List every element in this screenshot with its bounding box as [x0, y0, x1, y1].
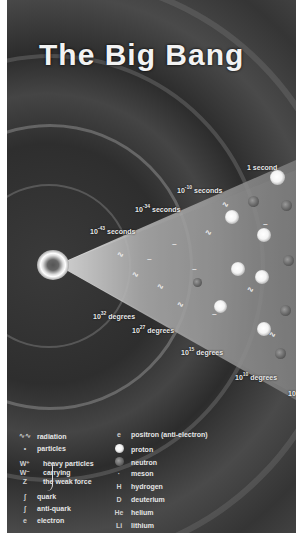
temp-label-1e27: 1027 degrees [132, 324, 174, 334]
big-bang-illustration: The Big Bang 1 second 10-10 seconds 10-3… [7, 0, 296, 533]
legend-item-electron: e electron [17, 517, 64, 524]
legend-item-positron: e positron (anti-electron) [111, 431, 208, 438]
temp-label-cut: 10 [288, 390, 296, 397]
temp-label-1e15: 1015 degrees [181, 346, 223, 356]
legend-item-neutron: neutron [111, 457, 157, 467]
legend-item-deuterium: D deuterium [111, 496, 165, 503]
proton-particle [214, 300, 227, 313]
meson-icon: · [111, 470, 127, 477]
proton-particle [270, 170, 285, 185]
quark-icon: ʃ [17, 493, 33, 500]
legend-item-helium: He helium [111, 509, 154, 516]
proton-icon [111, 444, 127, 454]
helium-icon: He [111, 509, 127, 516]
legend-item-weak-force: W⁺W⁻Z heavy particles carrying the weak … [17, 459, 94, 486]
radiation-icon: ∿ [117, 250, 124, 259]
weak-force-brace [47, 461, 53, 491]
legend-item-hydrogen: H hydrogen [111, 483, 163, 490]
radiation-icon: ∿ [157, 282, 164, 291]
neutron-particle [275, 348, 286, 359]
radiation-icon: ~ [172, 240, 177, 249]
deuterium-icon: D [111, 496, 127, 503]
lithium-icon: Li [111, 522, 127, 529]
neutron-icon [111, 457, 127, 467]
proton-particle [255, 270, 269, 284]
radiation-icon: ∿∿ [17, 432, 33, 440]
radiation-icon: ∿ [132, 270, 139, 279]
origin-flash [37, 250, 69, 280]
time-label-1e-43s: 10-43 seconds [90, 225, 135, 235]
temp-label-1e10: 1010 degrees [235, 371, 277, 381]
radiation-icon: ~ [192, 265, 197, 274]
neutron-particle [280, 305, 291, 316]
proton-particle [257, 228, 271, 242]
proton-particle [231, 262, 245, 276]
legend-item-proton: proton [111, 444, 153, 454]
radiation-icon: ~ [147, 255, 152, 264]
legend-item-particles: • particles [17, 445, 66, 452]
hydrogen-icon: H [111, 483, 127, 490]
radiation-icon: ∿ [177, 300, 184, 309]
temp-label-1e32: 1032 degrees [93, 310, 135, 320]
legend-item-quark: ʃ quark [17, 493, 56, 500]
positron-icon: e [111, 431, 127, 438]
electron-icon: e [17, 517, 33, 524]
page-title: The Big Bang [39, 38, 244, 72]
radiation-icon: ∿ [247, 285, 254, 294]
time-label-1e-34s: 10-34 seconds [135, 203, 180, 213]
particle-dot-icon: • [17, 445, 33, 452]
proton-particle [225, 210, 239, 224]
neutron-particle [193, 278, 202, 287]
legend-item-radiation: ∿∿ radiation [17, 432, 67, 440]
time-label-1s: 1 second [247, 164, 277, 171]
w-z-boson-icon: W⁺W⁻Z [17, 459, 33, 486]
legend-item-meson: · meson [111, 470, 154, 477]
time-label-1e-10s: 10-10 seconds [177, 184, 222, 194]
legend-item-anti-quark: ʃ anti-quark [17, 505, 71, 512]
radiation-icon: ∿ [222, 200, 229, 209]
anti-quark-icon: ʃ [17, 505, 33, 512]
neutron-particle [283, 255, 294, 266]
radiation-icon: ∿ [205, 228, 212, 237]
neutron-particle [281, 200, 292, 211]
proton-particle [257, 322, 271, 336]
neutron-particle [248, 196, 259, 207]
legend-item-lithium: Li lithium [111, 522, 154, 529]
